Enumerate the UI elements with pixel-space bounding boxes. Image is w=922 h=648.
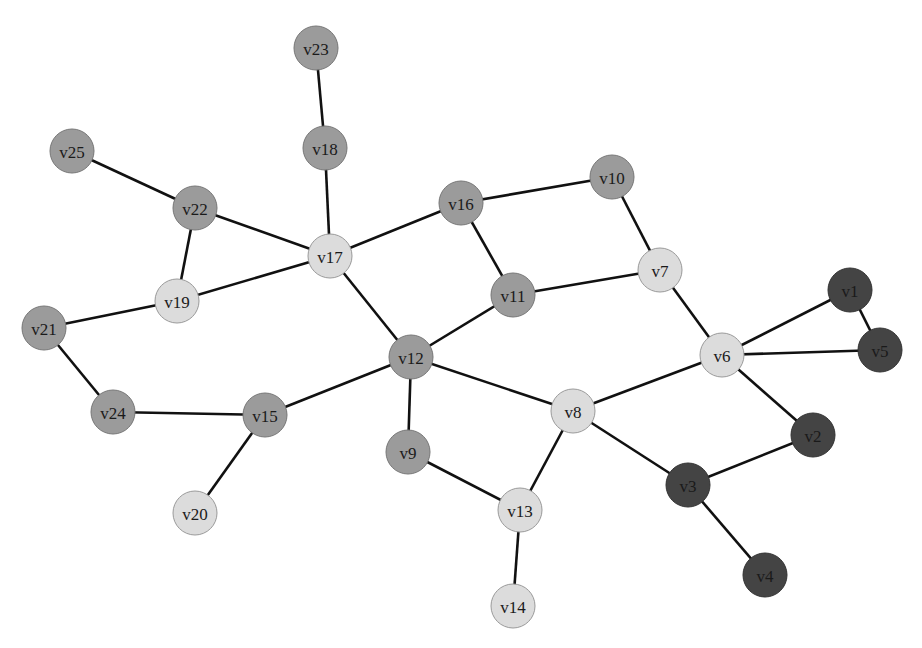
node-label: v14 xyxy=(500,598,526,617)
edge-layer xyxy=(44,48,880,606)
node-label: v4 xyxy=(757,567,775,586)
node-label: v21 xyxy=(31,320,57,339)
node-v8: v8 xyxy=(551,389,595,433)
node-label: v23 xyxy=(303,40,329,59)
node-v16: v16 xyxy=(439,181,483,225)
node-v3: v3 xyxy=(666,463,710,507)
node-v17: v17 xyxy=(308,234,352,278)
node-v1: v1 xyxy=(828,268,872,312)
node-label: v16 xyxy=(448,195,474,214)
edge-v6-v5 xyxy=(722,350,880,355)
node-v19: v19 xyxy=(155,279,199,323)
node-v14: v14 xyxy=(491,584,535,628)
node-label: v6 xyxy=(714,347,731,366)
node-v15: v15 xyxy=(243,393,287,437)
edge-v12-v8 xyxy=(411,357,573,411)
node-label: v22 xyxy=(182,200,208,219)
node-v4: v4 xyxy=(743,553,787,597)
node-v5: v5 xyxy=(858,328,902,372)
node-v11: v11 xyxy=(491,273,535,317)
node-label: v13 xyxy=(507,502,533,521)
node-v2: v2 xyxy=(791,413,835,457)
node-v18: v18 xyxy=(303,126,347,170)
edge-v16-v10 xyxy=(461,177,612,203)
edge-v19-v17 xyxy=(177,256,330,301)
node-v20: v20 xyxy=(173,491,217,535)
node-label: v2 xyxy=(805,427,822,446)
node-label: v5 xyxy=(872,342,889,361)
node-label: v10 xyxy=(599,169,625,188)
edge-v15-v12 xyxy=(265,357,411,415)
node-label: v17 xyxy=(317,248,343,267)
node-label: v7 xyxy=(652,262,670,281)
node-v24: v24 xyxy=(91,390,135,434)
graph-diagram: v1v2v3v4v5v6v7v8v9v10v11v12v13v14v15v16v… xyxy=(0,0,922,648)
node-label: v24 xyxy=(100,404,126,423)
node-label: v12 xyxy=(398,349,424,368)
node-v13: v13 xyxy=(498,488,542,532)
node-label: v8 xyxy=(565,403,582,422)
node-label: v18 xyxy=(312,140,338,159)
node-label: v3 xyxy=(680,477,697,496)
node-v10: v10 xyxy=(590,155,634,199)
node-label: v15 xyxy=(252,407,278,426)
node-label: v25 xyxy=(59,143,85,162)
node-v7: v7 xyxy=(638,248,682,292)
node-v25: v25 xyxy=(50,129,94,173)
node-label: v9 xyxy=(400,444,417,463)
node-label: v1 xyxy=(842,282,859,301)
node-v9: v9 xyxy=(386,430,430,474)
node-label: v20 xyxy=(182,505,208,524)
node-v21: v21 xyxy=(22,306,66,350)
node-v23: v23 xyxy=(294,26,338,70)
node-label: v11 xyxy=(501,287,526,306)
edge-v24-v15 xyxy=(113,412,265,415)
node-v6: v6 xyxy=(700,333,744,377)
node-v22: v22 xyxy=(173,186,217,230)
edge-v8-v6 xyxy=(573,355,722,411)
node-v12: v12 xyxy=(389,335,433,379)
node-label: v19 xyxy=(164,293,190,312)
